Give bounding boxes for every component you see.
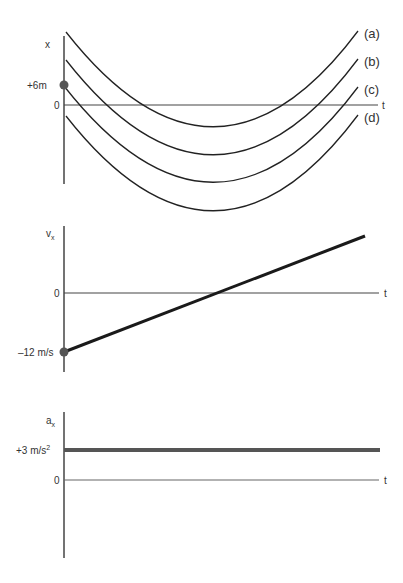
acceleration-t-axis-label: t [384,475,387,486]
velocity-initial-value-label: –12 m/s [18,347,54,358]
position-initial-value-label: +6m [27,80,47,91]
curve-label-d: (d) [364,110,380,125]
curve-label-b: (b) [364,54,380,69]
position-curve-b [66,59,358,155]
acceleration-value-label: +3 m/s2 [16,444,50,456]
kinematics-figure: x +6m 0 t (a) (b) (c) (d) vx 0 –12 m/s t… [0,0,403,583]
velocity-y-axis-label: vx [46,228,55,241]
position-y-axis-label: x [45,39,50,50]
velocity-zero-label: 0 [54,288,60,299]
velocity-graph: vx 0 –12 m/s t [18,226,387,372]
acceleration-y-axis-label: ax [46,415,56,428]
curve-label-a: (a) [364,26,380,41]
position-curve-c [64,86,358,182]
acceleration-zero-label: 0 [54,475,60,486]
position-curve-a [66,31,358,127]
position-zero-label: 0 [54,100,60,111]
position-curve-d [66,115,358,211]
velocity-line [64,236,365,352]
position-graph: x +6m 0 t (a) (b) (c) (d) [27,26,385,211]
velocity-t-axis-label: t [384,288,387,299]
position-t-axis-label: t [382,100,385,111]
acceleration-graph: ax +3 m/s2 0 t [16,412,387,558]
position-initial-dot [60,81,69,90]
velocity-initial-dot [60,348,69,357]
curve-label-c: (c) [364,82,379,97]
